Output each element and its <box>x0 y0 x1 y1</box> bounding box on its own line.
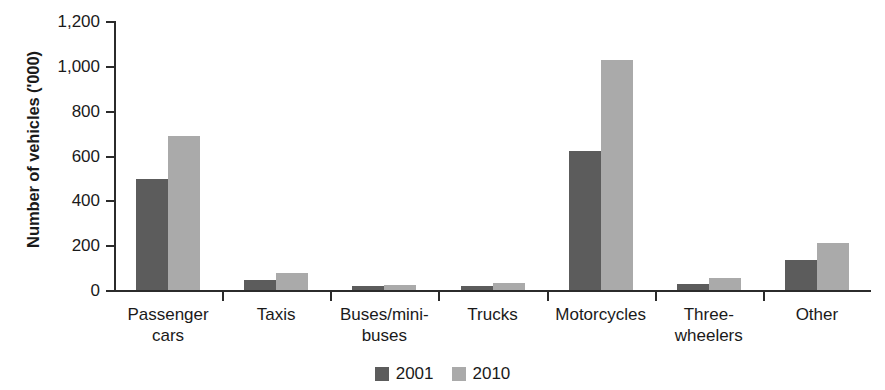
dark-gray-swatch <box>375 367 389 381</box>
y-tick-label: 600 <box>72 147 100 167</box>
y-tick-label: 0 <box>91 281 100 301</box>
x-axis-line <box>114 290 871 292</box>
legend-item-2010: 2010 <box>452 364 511 384</box>
bar-2010-group-1 <box>168 136 200 290</box>
legend-label: 2010 <box>473 364 511 384</box>
bar-2001-group-5 <box>569 151 601 290</box>
x-axis-label-6: Three-wheelers <box>655 304 763 346</box>
chart-legend: 20012010 <box>0 364 885 384</box>
bar-2001-group-6 <box>677 284 709 290</box>
x-axis-label-line: Motorcycles <box>547 304 655 325</box>
bar-2010-group-5 <box>601 60 633 290</box>
x-tick-separator <box>222 292 224 301</box>
x-tick-separator <box>438 292 440 301</box>
y-tick-0: 0 <box>106 290 114 292</box>
x-tick-separator <box>547 292 549 301</box>
x-axis-label-line: Taxis <box>222 304 330 325</box>
y-tick-600: 600 <box>106 156 114 158</box>
x-axis-label-line: wheelers <box>655 325 763 346</box>
x-axis-label-3: Buses/mini-buses <box>330 304 438 346</box>
x-axis-label-line: Passenger <box>114 304 222 325</box>
y-tick-800: 800 <box>106 111 114 113</box>
y-axis-line <box>114 21 116 292</box>
bar-2010-group-6 <box>709 278 741 290</box>
x-tick-separator <box>330 292 332 301</box>
bar-2010-group-7 <box>817 243 849 290</box>
y-tick-400: 400 <box>106 200 114 202</box>
bar-2001-group-7 <box>785 260 817 290</box>
y-tick-label: 400 <box>72 191 100 211</box>
y-tick-label: 800 <box>72 102 100 122</box>
legend-label: 2001 <box>396 364 434 384</box>
plot-area: 02004006008001,0001,200 PassengercarsTax… <box>114 21 871 291</box>
x-axis-label-line: Three- <box>655 304 763 325</box>
x-axis-label-5: Motorcycles <box>547 304 655 325</box>
x-axis-label-line: cars <box>114 325 222 346</box>
y-tick-1200: 1,200 <box>106 21 114 23</box>
x-axis-label-7: Other <box>763 304 871 325</box>
bar-2001-group-2 <box>244 280 276 290</box>
bar-2010-group-4 <box>493 283 525 290</box>
bar-2010-group-3 <box>384 285 416 290</box>
bar-2001-group-1 <box>136 179 168 290</box>
bar-2010-group-2 <box>276 273 308 290</box>
y-tick-1000: 1,000 <box>106 66 114 68</box>
bar-2001-group-4 <box>461 286 493 290</box>
x-axis-label-4: Trucks <box>438 304 546 325</box>
x-axis-label-line: buses <box>330 325 438 346</box>
y-tick-200: 200 <box>106 245 114 247</box>
bar-2001-group-3 <box>352 286 384 290</box>
x-tick-separator <box>763 292 765 301</box>
y-tick-label: 1,200 <box>57 12 100 32</box>
x-axis-label-line: Buses/mini- <box>330 304 438 325</box>
y-tick-label: 1,000 <box>57 57 100 77</box>
x-tick-separator <box>655 292 657 301</box>
x-axis-label-1: Passengercars <box>114 304 222 346</box>
x-axis-label-line: Other <box>763 304 871 325</box>
legend-item-2001: 2001 <box>375 364 434 384</box>
x-axis-label-2: Taxis <box>222 304 330 325</box>
y-tick-label: 200 <box>72 236 100 256</box>
x-axis-label-line: Trucks <box>438 304 546 325</box>
light-gray-swatch <box>452 367 466 381</box>
y-axis-title: Number of vehicles ('000) <box>24 5 43 295</box>
bar-chart-figure: Number of vehicles ('000) 02004006008001… <box>0 0 885 390</box>
